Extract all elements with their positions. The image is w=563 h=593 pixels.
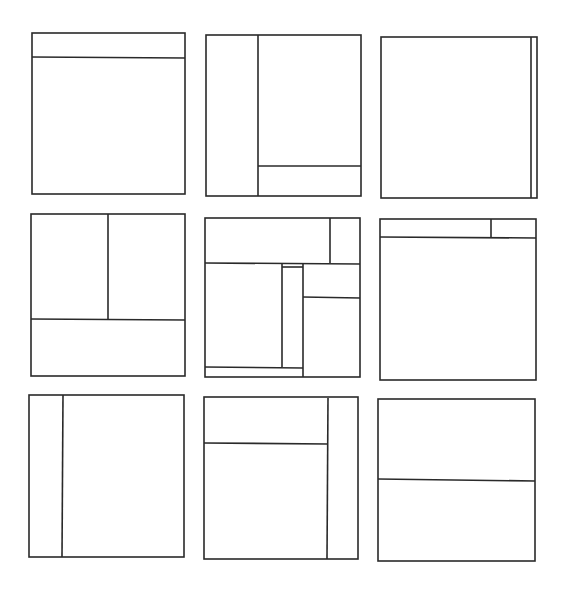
divider-line	[380, 237, 536, 238]
divider-line	[31, 319, 185, 320]
divider-line	[205, 263, 360, 264]
divider-line	[62, 395, 63, 557]
layout-diagram	[0, 0, 563, 593]
divider-line	[205, 367, 303, 368]
divider-line	[204, 443, 328, 444]
divider-line	[327, 398, 328, 559]
divider-line	[32, 57, 185, 58]
layout-diagram-canvas	[0, 0, 563, 593]
divider-line	[303, 297, 360, 298]
